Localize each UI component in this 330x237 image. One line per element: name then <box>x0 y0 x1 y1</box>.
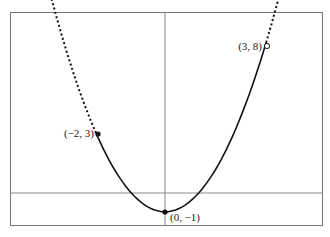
point-vertex <box>162 209 167 214</box>
curve-dashed-left <box>50 0 97 137</box>
parabola-chart: (−2, 3) (0, −1) (3, 8) <box>0 0 330 237</box>
curve-dashed-right <box>266 0 281 43</box>
label-point-right: (3, 8) <box>238 40 262 53</box>
label-point-left: (−2, 3) <box>64 127 94 140</box>
curve-solid <box>98 43 267 212</box>
point-filled-left <box>95 131 100 136</box>
plot-frame <box>11 13 323 226</box>
point-open-right <box>264 43 269 48</box>
label-vertex: (0, −1) <box>170 211 200 224</box>
